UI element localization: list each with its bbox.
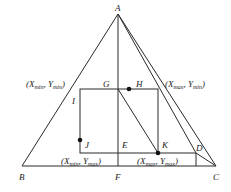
- point-k: [156, 151, 161, 156]
- label-xmax-ymax: (Xmax, Ymax): [137, 156, 178, 167]
- label-f: F: [114, 172, 121, 182]
- label-j: J: [85, 140, 90, 150]
- label-xmax-ymin: (Xmax, Ymin): [165, 79, 205, 90]
- label-k: K: [161, 140, 169, 150]
- label-xmin-ymin: (Xmin, Ymin): [26, 79, 65, 90]
- geometry-diagram: A B C F G H I J E K D (Xmin, Ymin) (Xmax…: [0, 0, 231, 192]
- label-e: E: [121, 140, 128, 150]
- label-c: C: [213, 172, 220, 182]
- label-a: A: [114, 3, 121, 13]
- point-j: [78, 138, 83, 143]
- label-b: B: [19, 172, 25, 182]
- label-g: G: [103, 79, 110, 89]
- point-h: [127, 87, 132, 92]
- label-xmin-ymax: (Xmin, Ymax): [61, 156, 101, 167]
- bounding-rectangle: [80, 89, 158, 153]
- label-d: D: [195, 143, 203, 153]
- line-dc: [196, 153, 216, 166]
- label-i: I: [71, 96, 76, 106]
- label-h: H: [135, 79, 143, 89]
